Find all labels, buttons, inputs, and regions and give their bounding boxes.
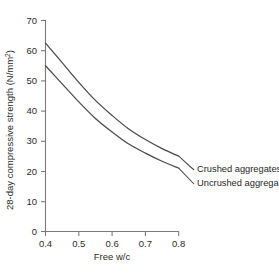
series-line-uncrushed-aggregates <box>46 66 179 168</box>
y-tick-label-70: 70 <box>26 15 37 26</box>
y-tick-label-0: 0 <box>32 226 37 237</box>
y-tick-label-50: 50 <box>26 75 37 86</box>
x-tick-marks <box>46 232 179 237</box>
x-tick-label-0-6: 0.6 <box>105 238 118 249</box>
leader-line-crushed <box>179 156 194 170</box>
y-tick-label-30: 30 <box>26 135 37 146</box>
y-axis-title-tail: ) <box>4 50 15 53</box>
x-tick-label-0-4: 0.4 <box>39 238 52 249</box>
x-tick-label-0-8: 0.8 <box>172 238 185 249</box>
series-line-crushed-aggregates <box>46 43 179 156</box>
y-tick-label-60: 60 <box>26 45 37 56</box>
x-tick-label-0-7: 0.7 <box>139 238 152 249</box>
series-label-crushed-aggregates: Crushed aggregates <box>197 164 279 174</box>
y-axis-title: 28-day compressive strength (N/mm2) <box>4 50 15 210</box>
series-label-uncrushed-aggregates: Uncrushed aggregates <box>197 178 279 188</box>
leader-line-uncrushed <box>179 168 194 184</box>
svg-text:28-day compressive strength (N: 28-day compressive strength (N/mm2) <box>4 50 15 210</box>
x-axis-title: Free w/c <box>94 251 131 262</box>
y-axis-title-main: 28-day compressive strength (N/mm <box>4 57 15 210</box>
y-tick-label-40: 40 <box>26 105 37 116</box>
y-tick-label-20: 20 <box>26 166 37 177</box>
chart-figure: 70 60 50 40 30 20 10 0 0.4 0.5 0.6 0.7 0… <box>0 0 279 275</box>
y-tick-label-10: 10 <box>26 196 37 207</box>
x-tick-label-0-5: 0.5 <box>72 238 85 249</box>
y-tick-marks <box>41 21 46 232</box>
